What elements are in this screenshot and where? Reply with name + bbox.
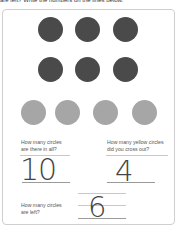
question-line: How many circles bbox=[21, 139, 62, 146]
question-crossed-out: How many yellow circles did you cross ou… bbox=[107, 139, 164, 153]
answer-line bbox=[107, 182, 155, 183]
dark-circle bbox=[113, 17, 138, 42]
question-line: How many circles bbox=[21, 202, 62, 209]
question-line: are left? bbox=[21, 209, 62, 216]
dark-circle bbox=[38, 57, 63, 82]
yellow-circle bbox=[93, 100, 118, 125]
yellow-circle bbox=[55, 100, 80, 125]
yellow-circle bbox=[21, 100, 46, 125]
dark-circle bbox=[38, 17, 63, 42]
dark-circle bbox=[75, 17, 100, 42]
dark-circle bbox=[75, 57, 100, 82]
dark-circle bbox=[113, 57, 138, 82]
answer-line bbox=[78, 218, 126, 219]
instructions-text: are left? Write the numbers on the lines… bbox=[0, 0, 179, 4]
yellow-circle bbox=[132, 100, 157, 125]
question-line: How many yellow circles bbox=[107, 139, 164, 146]
question-circles-left: How many circles are left? bbox=[21, 202, 62, 216]
answer-line bbox=[22, 182, 70, 183]
question-line: did you cross out? bbox=[107, 146, 164, 153]
answer-total-circles[interactable]: 10 bbox=[20, 155, 56, 185]
question-total-circles: How many circles are there in all? bbox=[21, 139, 62, 153]
